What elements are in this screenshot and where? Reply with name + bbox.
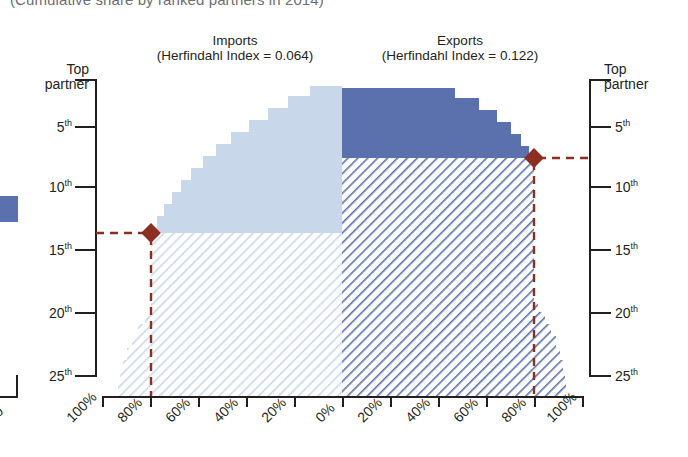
imports-panel-heading: Imports (Herfindahl Index = 0.064) [120,33,350,63]
x-tick-0 [102,396,104,407]
imports-hatched-fill [100,233,345,398]
x-tick-1 [150,396,152,407]
x-tick-6 [390,396,392,407]
x-label-10: 100% [543,389,580,426]
exports-marker-diamond [524,148,544,168]
x-label-3: 40% [210,394,241,425]
x-tick-4 [294,396,296,407]
x-tick-8 [486,396,488,407]
exports-subtitle: (Herfindahl Index = 0.122) [345,48,575,63]
right-label-20: 20th [615,304,667,321]
left-neighbor-x-label-fragment: 60 [0,403,6,425]
left-label-15: 15th [26,241,72,258]
x-label-1: 80% [114,394,145,425]
left-axis-top-partner-label: Toppartner [17,62,89,92]
x-label-2: 60% [162,394,193,425]
right-axis-top-partner-label: Toppartner [604,62,682,92]
exports-area-group [340,79,588,398]
exports-title: Exports [345,33,575,48]
imports-marker-diamond [141,223,161,243]
x-label-8: 60% [450,394,481,425]
right-label-15: 15th [615,241,667,258]
x-label-7: 40% [402,394,433,425]
x-label-6: 20% [354,394,385,425]
left-label-5: 5th [26,118,72,135]
x-label-0: 100% [63,389,100,426]
left-tick-top [75,79,97,81]
chart-caption: (Cumulative share by ranked partners in … [10,0,324,8]
x-label-9: 80% [498,394,529,425]
left-tick-25 [75,375,97,377]
left-tick-20 [75,312,97,314]
right-label-5: 5th [615,118,667,135]
exports-panel-heading: Exports (Herfindahl Index = 0.122) [345,33,575,63]
right-label-10: 10th [615,178,667,195]
imports-subtitle: (Herfindahl Index = 0.064) [120,48,350,63]
x-tick-7 [438,396,440,407]
right-tick-20 [589,312,611,314]
right-label-25: 25th [615,367,667,384]
right-tick-25 [589,375,611,377]
imports-solid-fill [100,79,345,233]
left-label-20: 20th [26,304,72,321]
right-tick-15 [589,249,611,251]
x-tick-10 [582,396,584,407]
x-label-5: 0% [312,400,338,426]
x-tick-9 [534,396,536,407]
exports-solid-fill [340,79,588,158]
legend-color-swatch [0,196,18,222]
right-tick-10 [589,186,611,188]
x-tick-2 [198,396,200,407]
x-tick-3 [246,396,248,407]
left-tick-15 [75,249,97,251]
chart-plot-area [0,0,688,457]
exports-hatched-fill [340,158,588,398]
right-axis-line [589,79,591,377]
left-axis-line [95,79,97,377]
chart-canvas: (Cumulative share by ranked partners in … [0,0,688,457]
imports-title: Imports [120,33,350,48]
right-tick-top [589,79,611,81]
left-label-25: 25th [26,367,72,384]
right-tick-5 [589,126,611,128]
left-label-10: 10th [26,178,72,195]
left-tick-5 [75,126,97,128]
x-tick-5 [342,396,344,407]
left-neighbor-axis-tick-fragment [16,375,18,397]
x-label-4: 20% [258,394,289,425]
imports-area-group [100,79,345,398]
left-tick-10 [75,186,97,188]
